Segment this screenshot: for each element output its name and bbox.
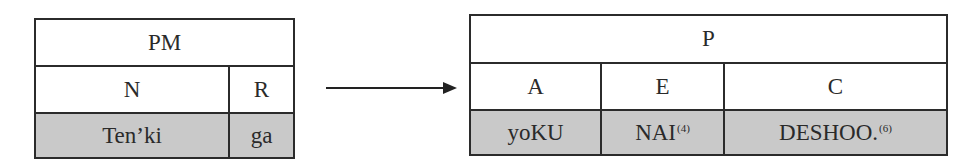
- label-a: A: [471, 64, 600, 109]
- pm-value-row: Ten’ki ga: [36, 112, 293, 157]
- pm-header-cell: PM: [36, 20, 293, 65]
- arrow-right-icon: [443, 82, 457, 94]
- p-label-row: A E C: [471, 62, 946, 109]
- label-r: R: [228, 67, 293, 112]
- transform-arrow-line: [326, 87, 446, 89]
- value-nai: NAI(4): [600, 111, 723, 154]
- value-nai-text: NAI: [635, 120, 676, 146]
- p-table: P A E C yoKU NAI(4) DESHOO.(6): [469, 14, 948, 156]
- footnote-6: (6): [879, 123, 892, 134]
- p-header-cell: P: [471, 16, 946, 62]
- label-c: C: [723, 64, 946, 109]
- label-e: E: [600, 64, 723, 109]
- value-deshoo-text: DESHOO.: [779, 120, 878, 146]
- footnote-4: (4): [677, 123, 690, 134]
- pm-header-row: PM: [36, 20, 293, 65]
- p-header-row: P: [471, 16, 946, 62]
- value-yoku: yoKU: [471, 111, 600, 154]
- value-ga: ga: [228, 114, 293, 157]
- value-tenki: Ten’ki: [36, 114, 228, 157]
- pm-table: PM N R Ten’ki ga: [34, 18, 295, 159]
- label-n: N: [36, 67, 228, 112]
- pm-label-row: N R: [36, 65, 293, 112]
- value-yoku-text: yoKU: [507, 120, 563, 146]
- value-deshoo: DESHOO.(6): [723, 111, 946, 154]
- p-value-row: yoKU NAI(4) DESHOO.(6): [471, 109, 946, 154]
